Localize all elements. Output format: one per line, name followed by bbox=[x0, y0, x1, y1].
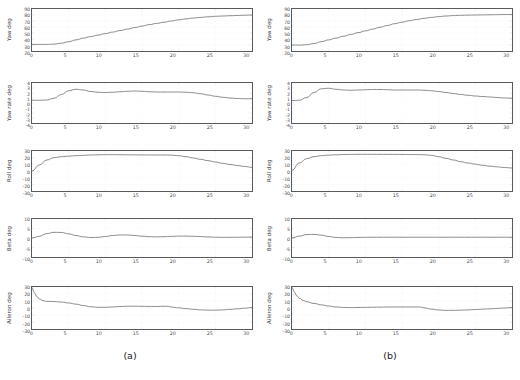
x-tick-label: 10 bbox=[356, 54, 362, 59]
x-tick-label: 10 bbox=[96, 332, 102, 337]
plot-panel-b1: Yaw deg9080706050403020051015202530 bbox=[260, 0, 520, 380]
x-tick-label: 20 bbox=[170, 260, 176, 265]
x-tick-label: 10 bbox=[96, 194, 102, 199]
x-tick-label: 25 bbox=[207, 332, 213, 337]
x-tick-label: 20 bbox=[430, 54, 436, 59]
y-axis-label: Yaw rate deg bbox=[2, 82, 16, 124]
y-axis-ticks: 9080706050403020 bbox=[274, 8, 290, 52]
x-axis-ticks: 051015202530 bbox=[31, 194, 253, 199]
x-tick-label: 5 bbox=[63, 126, 66, 131]
x-tick-label: 25 bbox=[207, 194, 213, 199]
y-axis-label: Beta deg bbox=[2, 218, 16, 258]
x-tick-label: 30 bbox=[243, 260, 249, 265]
x-tick-label: 30 bbox=[243, 194, 249, 199]
plot-panel-a2: Yaw rate deg43210-1-2-3-4051015202530 bbox=[0, 0, 260, 380]
x-tick-label: 20 bbox=[430, 260, 436, 265]
y-axis-label: Aileron deg bbox=[2, 286, 16, 330]
x-tick-label: 20 bbox=[430, 194, 436, 199]
x-tick-label: 15 bbox=[133, 126, 139, 131]
x-tick-label: 10 bbox=[356, 332, 362, 337]
x-tick-label: 0 bbox=[30, 332, 33, 337]
x-tick-label: 15 bbox=[393, 260, 399, 265]
x-tick-label: 15 bbox=[393, 194, 399, 199]
x-tick-label: 0 bbox=[30, 260, 33, 265]
x-axis-ticks: 051015202530 bbox=[291, 332, 513, 337]
x-tick-label: 30 bbox=[503, 332, 509, 337]
x-tick-label: 0 bbox=[30, 54, 33, 59]
plot-area bbox=[291, 218, 513, 258]
x-tick-label: 0 bbox=[30, 194, 33, 199]
plot-area bbox=[291, 286, 513, 330]
subfigure-a: Yaw deg9080706050403020051015202530Yaw r… bbox=[0, 0, 260, 380]
x-tick-label: 20 bbox=[170, 332, 176, 337]
x-tick-label: 15 bbox=[393, 54, 399, 59]
x-tick-label: 15 bbox=[133, 260, 139, 265]
x-tick-label: 25 bbox=[467, 126, 473, 131]
x-tick-label: 30 bbox=[243, 54, 249, 59]
y-axis-label: Roll deg bbox=[262, 150, 276, 192]
plot-panel-b4: Beta deg1050-5-10051015202530 bbox=[260, 0, 520, 380]
x-tick-label: 10 bbox=[96, 126, 102, 131]
figure-container: Yaw deg9080706050403020051015202530Yaw r… bbox=[0, 0, 520, 380]
plot-panel-a4: Beta deg1050-5-10051015202530 bbox=[0, 0, 260, 380]
x-tick-label: 25 bbox=[467, 54, 473, 59]
x-tick-label: 20 bbox=[170, 194, 176, 199]
plot-area bbox=[291, 82, 513, 124]
x-tick-label: 5 bbox=[323, 194, 326, 199]
x-axis-ticks: 051015202530 bbox=[31, 54, 253, 59]
x-tick-label: 20 bbox=[170, 126, 176, 131]
x-tick-label: 5 bbox=[63, 54, 66, 59]
x-tick-label: 10 bbox=[356, 126, 362, 131]
plot-panel-a3: Roll deg3020100-10-20-30051015202530 bbox=[0, 0, 260, 380]
x-tick-label: 15 bbox=[133, 194, 139, 199]
x-tick-label: 0 bbox=[290, 126, 293, 131]
x-tick-label: 10 bbox=[356, 260, 362, 265]
x-tick-label: 20 bbox=[430, 332, 436, 337]
x-tick-label: 30 bbox=[503, 126, 509, 131]
x-tick-label: 20 bbox=[430, 126, 436, 131]
x-tick-label: 5 bbox=[63, 332, 66, 337]
x-tick-label: 30 bbox=[243, 332, 249, 337]
plot-area bbox=[291, 8, 513, 52]
plot-area bbox=[31, 8, 253, 52]
y-axis-label: Yaw deg bbox=[262, 8, 276, 52]
x-tick-label: 10 bbox=[356, 194, 362, 199]
plot-panel-a5: Aileron deg3020100-10-20-30051015202530 bbox=[0, 0, 260, 380]
x-tick-label: 25 bbox=[207, 126, 213, 131]
x-tick-label: 30 bbox=[503, 260, 509, 265]
x-axis-ticks: 051015202530 bbox=[291, 194, 513, 199]
x-tick-label: 5 bbox=[63, 194, 66, 199]
x-tick-label: 25 bbox=[207, 54, 213, 59]
x-tick-label: 0 bbox=[290, 260, 293, 265]
plot-area bbox=[31, 82, 253, 124]
x-axis-ticks: 051015202530 bbox=[31, 260, 253, 265]
y-axis-ticks: 9080706050403020 bbox=[14, 8, 30, 52]
x-axis-ticks: 051015202530 bbox=[31, 126, 253, 131]
y-axis-ticks: 3020100-10-20-30 bbox=[274, 286, 290, 330]
x-tick-label: 15 bbox=[393, 126, 399, 131]
x-tick-label: 25 bbox=[467, 260, 473, 265]
y-axis-ticks: 3020100-10-20-30 bbox=[274, 150, 290, 192]
plot-area bbox=[31, 286, 253, 330]
x-tick-label: 10 bbox=[96, 260, 102, 265]
y-axis-ticks: 3020100-10-20-30 bbox=[14, 286, 30, 330]
x-tick-label: 5 bbox=[323, 126, 326, 131]
x-tick-label: 30 bbox=[503, 194, 509, 199]
x-tick-label: 10 bbox=[96, 54, 102, 59]
x-tick-label: 5 bbox=[323, 332, 326, 337]
x-tick-label: 5 bbox=[63, 260, 66, 265]
x-tick-label: 0 bbox=[290, 54, 293, 59]
x-tick-label: 0 bbox=[290, 194, 293, 199]
x-tick-label: 15 bbox=[393, 332, 399, 337]
subfigure-b: Yaw deg9080706050403020051015202530Yaw r… bbox=[260, 0, 520, 380]
x-tick-label: 30 bbox=[243, 126, 249, 131]
x-axis-ticks: 051015202530 bbox=[291, 126, 513, 131]
x-tick-label: 15 bbox=[133, 54, 139, 59]
caption-a: (a) bbox=[0, 350, 260, 361]
y-axis-ticks: 43210-1-2-3-4 bbox=[14, 82, 30, 124]
x-tick-label: 0 bbox=[30, 126, 33, 131]
caption-b: (b) bbox=[260, 350, 520, 361]
x-tick-label: 0 bbox=[290, 332, 293, 337]
y-axis-label: Yaw deg bbox=[2, 8, 16, 52]
x-tick-label: 25 bbox=[467, 332, 473, 337]
